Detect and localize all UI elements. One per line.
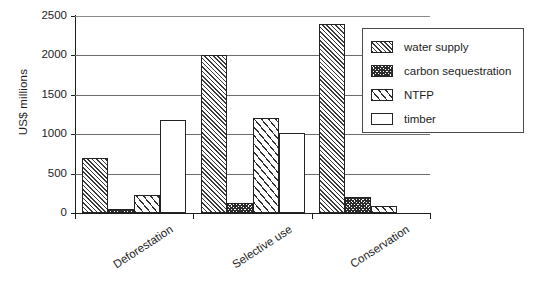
bar-ntfp-selective-use <box>253 118 279 213</box>
bar-carbon-sequestration-conservation <box>345 197 371 213</box>
y-axis-tick-label: 2000 <box>7 49 67 61</box>
legend-swatch-icon <box>371 89 393 101</box>
bar-timber-selective-use <box>279 133 305 213</box>
legend-swatch-icon <box>371 65 393 77</box>
gridline <box>75 213 430 214</box>
bar-water-supply-deforestation <box>82 158 108 213</box>
bar-timber-deforestation <box>160 120 186 213</box>
y-axis-tick-mark <box>71 134 75 135</box>
legend-item-water-supply[interactable]: water supply <box>371 35 523 59</box>
y-axis-tick-mark <box>71 16 75 17</box>
legend-item-timber[interactable]: timber <box>371 107 523 131</box>
y-axis-tick-label: 2500 <box>7 10 67 22</box>
legend-item-ntfp[interactable]: NTFP <box>371 83 523 107</box>
legend-item-label: carbon sequestration <box>404 65 511 77</box>
bar-ntfp-deforestation <box>134 195 160 213</box>
legend-swatch-icon <box>371 41 393 53</box>
x-axis-category-label: Conservation <box>348 223 412 271</box>
bar-chart: US$ millions 25002000150010005000 water … <box>0 0 537 293</box>
x-axis-tick-mark <box>312 213 313 219</box>
legend-item-carbon-sequestration[interactable]: carbon sequestration <box>371 59 523 83</box>
gridline <box>75 16 430 17</box>
bar-carbon-sequestration-selective-use <box>227 203 253 213</box>
chart-legend: water supplycarbon sequestrationNTFPtimb… <box>362 28 524 133</box>
y-axis-tick-label: 1500 <box>7 89 67 101</box>
x-axis-tick-mark <box>75 213 76 219</box>
y-axis-tick-label: 500 <box>7 168 67 180</box>
y-axis-tick-mark <box>71 55 75 56</box>
y-axis-tick-mark <box>71 174 75 175</box>
bar-ntfp-conservation <box>371 206 397 213</box>
legend-item-label: timber <box>404 113 436 125</box>
x-axis-category-label: Selective use <box>230 223 294 271</box>
y-axis-tick-label: 0 <box>7 207 67 219</box>
bar-water-supply-conservation <box>319 24 345 213</box>
x-axis-category-label: Deforestation <box>111 223 175 271</box>
x-axis-tick-mark <box>193 213 194 219</box>
x-axis-tick-mark <box>430 213 431 219</box>
legend-item-label: NTFP <box>404 89 434 101</box>
y-axis-tick-label: 1000 <box>7 128 67 140</box>
bar-water-supply-selective-use <box>201 55 227 213</box>
legend-swatch-icon <box>371 113 393 125</box>
legend-item-label: water supply <box>404 41 469 53</box>
bar-carbon-sequestration-deforestation <box>108 209 134 213</box>
y-axis-tick-mark <box>71 95 75 96</box>
